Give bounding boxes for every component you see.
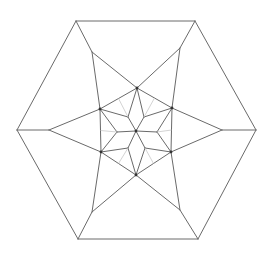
star-arm bbox=[137, 48, 180, 88]
outer-hexagon-edge bbox=[17, 21, 76, 130]
outer-hexagon-edge bbox=[195, 21, 256, 130]
rosette-kite bbox=[100, 109, 117, 132]
vertex-node bbox=[136, 87, 139, 90]
spoke-edge bbox=[180, 21, 195, 48]
faint-guide-line bbox=[119, 148, 129, 164]
vertex-node bbox=[135, 174, 138, 177]
spoke-edge bbox=[76, 21, 92, 52]
outer-hexagon-edge bbox=[17, 130, 78, 239]
star-arm bbox=[171, 130, 222, 152]
rosette-spoke bbox=[128, 117, 136, 131]
faint-guide-line bbox=[157, 130, 172, 132]
faint-guide-line bbox=[145, 148, 154, 164]
star-arm bbox=[136, 175, 180, 210]
rosette-spoke bbox=[117, 131, 136, 132]
polyhedron-diagram bbox=[0, 0, 266, 256]
rosette-spoke bbox=[128, 131, 136, 148]
rosette-kite bbox=[137, 88, 144, 117]
vertex-node bbox=[170, 151, 173, 154]
star-arm bbox=[92, 52, 137, 88]
star-arm bbox=[172, 48, 180, 108]
spoke-edge bbox=[180, 210, 198, 239]
spoke-edge bbox=[78, 212, 92, 239]
rosette-kite bbox=[136, 148, 145, 175]
vertex-node bbox=[99, 108, 102, 111]
star-arm bbox=[92, 175, 136, 212]
star-arm bbox=[172, 108, 222, 130]
rosette-spoke bbox=[136, 131, 145, 148]
rosette-spoke bbox=[136, 131, 157, 132]
rosette-kite bbox=[157, 132, 171, 152]
star-arm bbox=[49, 130, 101, 152]
rosette-kite bbox=[101, 148, 128, 152]
outer-hexagon-edge bbox=[198, 130, 256, 239]
star-arm bbox=[92, 152, 101, 212]
vertex-node bbox=[171, 107, 174, 110]
star-arm bbox=[49, 109, 100, 130]
rosette-kite bbox=[101, 132, 117, 152]
vertex-node bbox=[100, 151, 103, 154]
rosette-kite bbox=[145, 148, 171, 152]
star-arm bbox=[92, 52, 100, 109]
rosette-spoke bbox=[136, 117, 144, 131]
star-arm bbox=[171, 152, 180, 210]
vertex-node bbox=[135, 130, 138, 133]
faint-guide-line bbox=[101, 131, 118, 133]
rosette-kite bbox=[100, 109, 128, 117]
